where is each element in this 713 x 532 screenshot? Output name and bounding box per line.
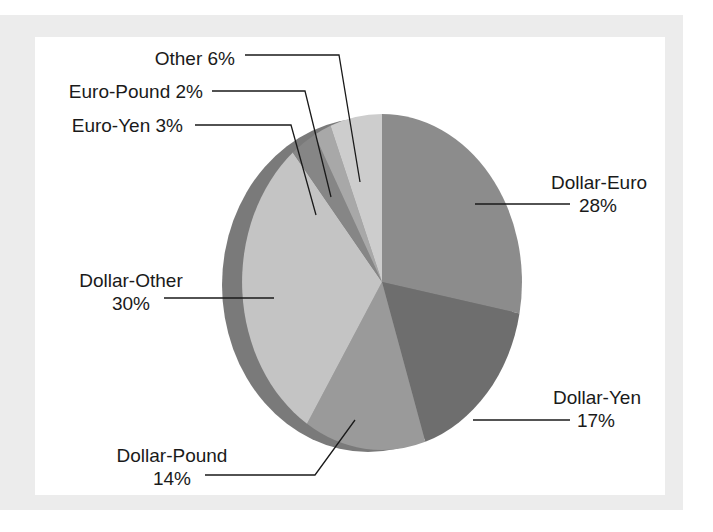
pie-slice-dollar-euro bbox=[382, 114, 522, 314]
label-dollar-euro-name: Dollar-Euro bbox=[551, 172, 647, 193]
label-euro-yen: Euro-Yen 3% bbox=[72, 115, 183, 136]
pie-chart: Other 6% Euro-Pound 2% Euro-Yen 3% Dolla… bbox=[0, 0, 713, 532]
label-euro-pound: Euro-Pound 2% bbox=[69, 81, 203, 102]
label-dollar-yen-name: Dollar-Yen bbox=[553, 387, 641, 408]
label-dollar-other-value: 30% bbox=[112, 293, 150, 314]
pie-slices bbox=[242, 114, 522, 450]
label-dollar-other-name: Dollar-Other bbox=[79, 270, 183, 291]
label-dollar-pound-value: 14% bbox=[153, 468, 191, 489]
label-dollar-euro-value: 28% bbox=[579, 195, 617, 216]
label-dollar-yen-value: 17% bbox=[577, 410, 615, 431]
label-dollar-pound-name: Dollar-Pound bbox=[117, 445, 228, 466]
label-other: Other 6% bbox=[155, 48, 235, 69]
